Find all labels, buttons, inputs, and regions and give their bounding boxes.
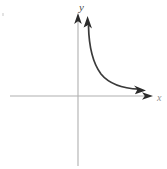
curve-right-arrowhead-icon — [134, 86, 146, 95]
math-figure: y x — [0, 0, 167, 169]
stray-speck — [2, 13, 4, 16]
coordinate-plane-svg — [0, 0, 167, 169]
decay-curve-path — [89, 26, 140, 89]
y-axis-label: y — [79, 2, 84, 13]
x-axis-label: x — [157, 92, 161, 103]
